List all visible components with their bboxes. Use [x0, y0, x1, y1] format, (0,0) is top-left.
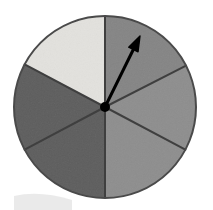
scan-smudge — [14, 194, 72, 210]
spinner-canvas — [0, 0, 213, 210]
spinner-hub[interactable] — [100, 102, 110, 112]
spinner-figure — [0, 0, 213, 210]
